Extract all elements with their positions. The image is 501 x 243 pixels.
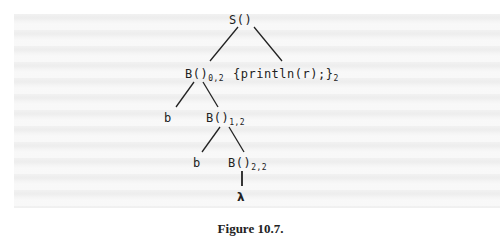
- node-s-root: S(): [229, 13, 252, 27]
- edge-b12-to-b: [202, 127, 220, 152]
- node-b-1-2: B()1,2: [206, 111, 245, 130]
- edge-s-to-println: [254, 27, 282, 61]
- node-b-0-2: B()0,2: [185, 67, 224, 86]
- node-b-2-2: B()2,2: [228, 156, 267, 175]
- node-println: {println(r);}2: [233, 67, 339, 86]
- edge-s-to-b02: [210, 27, 238, 61]
- node-b-leaf-2: b: [193, 156, 201, 170]
- node-lambda: λ: [237, 190, 245, 204]
- edge-b12-to-b22: [229, 127, 244, 152]
- figure-caption: Figure 10.7.: [0, 221, 501, 237]
- tree-edges: [0, 0, 501, 243]
- node-b-leaf-1: b: [164, 111, 172, 125]
